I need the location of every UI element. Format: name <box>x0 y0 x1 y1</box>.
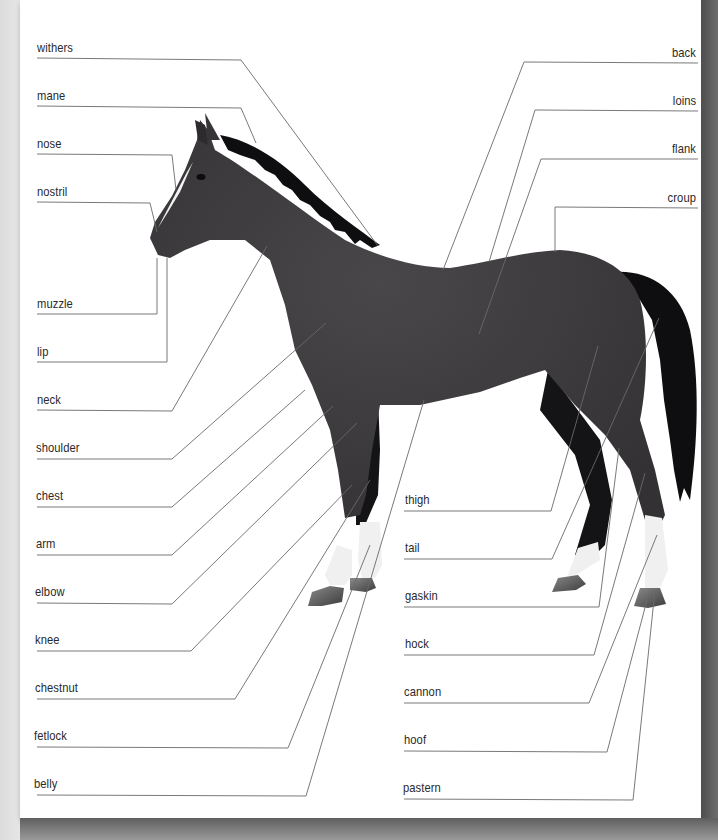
label-hock: hock <box>405 637 429 651</box>
leader-hoof <box>404 600 647 752</box>
leader-neck <box>37 246 267 411</box>
label-belly: belly <box>34 777 57 791</box>
leader-cannon <box>404 535 657 703</box>
label-hoof: hoof <box>404 733 426 747</box>
label-tail: tail <box>405 541 420 555</box>
label-fetlock: fetlock <box>34 729 67 743</box>
label-neck: neck <box>37 393 61 407</box>
label-arm: arm <box>36 537 56 551</box>
label-elbow: elbow <box>35 585 65 599</box>
leader-knee <box>37 485 352 651</box>
label-mane: mane <box>37 89 65 103</box>
label-cannon: cannon <box>404 685 441 699</box>
hoof-far-hind <box>552 575 586 592</box>
sock-near-fore <box>325 545 352 585</box>
sock-far-fore <box>358 522 382 578</box>
label-chestnut: chestnut <box>35 681 78 695</box>
leader-arm <box>37 406 333 555</box>
leader-shoulder <box>37 323 326 459</box>
horse-anatomy-diagram <box>0 0 718 840</box>
label-flank: flank <box>672 142 696 156</box>
hoof-near-fore <box>308 586 344 606</box>
leader-pastern <box>404 590 655 800</box>
label-withers: withers <box>37 41 73 55</box>
sock-near-hind <box>645 515 668 588</box>
eye <box>197 174 206 180</box>
horse-illustration <box>150 113 697 608</box>
label-thigh: thigh <box>405 493 430 507</box>
label-chest: chest <box>36 489 63 503</box>
leader-fetlock <box>37 545 370 748</box>
label-loins: loins <box>673 94 696 108</box>
label-back: back <box>672 46 696 60</box>
label-lip: lip <box>37 345 48 359</box>
sock-far-hind <box>568 542 600 578</box>
leader-back <box>443 62 698 270</box>
label-muzzle: muzzle <box>37 297 73 311</box>
label-knee: knee <box>35 633 60 647</box>
hoof-near-hind <box>634 588 666 608</box>
label-gaskin: gaskin <box>405 589 438 603</box>
label-nose: nose <box>37 137 62 151</box>
label-croup: croup <box>668 191 696 205</box>
leader-elbow <box>37 423 357 604</box>
label-nostril: nostril <box>37 185 67 199</box>
label-pastern: pastern <box>403 781 441 795</box>
label-shoulder: shoulder <box>36 441 80 455</box>
leader-croup <box>555 207 698 252</box>
leader-nostril <box>37 202 157 232</box>
leader-loins <box>489 110 698 262</box>
